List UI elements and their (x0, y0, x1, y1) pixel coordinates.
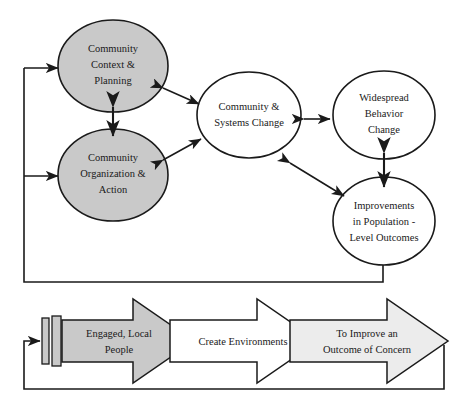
node-label-line: Systems Change (214, 117, 284, 128)
block-arrow-label-line: Create Environments (199, 336, 288, 347)
diagram-canvas: Community Context & Planning Community O… (0, 0, 467, 412)
block-arrow-label-line: Engaged, Local (86, 328, 152, 339)
node-label-line: Community & (219, 101, 280, 112)
node-label-line: Community (88, 152, 139, 163)
block-arrow-label-line: To Improve an (336, 328, 398, 339)
node-label-line: Improvements (354, 200, 415, 211)
block-arrow-label-line: People (105, 344, 134, 355)
node-community-organization-action[interactable]: Community Organization & Action (58, 129, 168, 221)
node-community-systems-change[interactable]: Community & Systems Change (197, 72, 301, 158)
node-label-line: Organization & (80, 168, 145, 179)
node-label-line: Planning (94, 75, 132, 86)
node-label-line: Context & (91, 59, 135, 70)
node-improvements-population-level-outcomes[interactable]: Improvements in Population - Level Outco… (333, 177, 435, 265)
node-community-context-planning[interactable]: Community Context & Planning (58, 20, 168, 112)
connector-organization-to-systems (163, 139, 201, 160)
start-bar-outer (42, 318, 49, 364)
block-arrow-to-improve-outcome-of-concern[interactable]: To Improve an Outcome of Concern (290, 299, 448, 383)
node-label-line: Behavior (365, 108, 404, 119)
start-bar-inner (52, 316, 61, 366)
node-widespread-behavior-change[interactable]: Widespread Behavior Change (333, 71, 435, 159)
node-label-line: Change (368, 124, 400, 135)
node-label-line: Action (99, 184, 128, 195)
connector-systems-to-improvements (290, 163, 344, 196)
node-label-line: Widespread (359, 92, 409, 103)
community-change-diagram: Community Context & Planning Community O… (0, 0, 467, 412)
node-label-line: in Population - (353, 216, 416, 227)
block-arrow-label-line: Outcome of Concern (323, 344, 412, 355)
node-label-line: Level Outcomes (349, 232, 418, 243)
connector-context-to-systems (163, 88, 199, 104)
node-label-line: Community (88, 43, 139, 54)
